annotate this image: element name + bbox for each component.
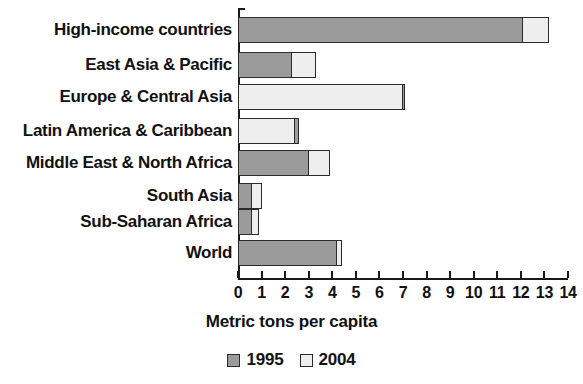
x-tick-label: 4 [328, 284, 337, 302]
x-tick-label: 3 [304, 284, 313, 302]
x-tick-label: 9 [446, 284, 455, 302]
x-tick [496, 271, 498, 278]
bar-chart: 01234567891011121314 High-income countri… [0, 0, 583, 384]
bar-1995 [238, 150, 309, 176]
x-tick-label: 6 [375, 284, 384, 302]
x-tick [331, 271, 333, 278]
x-tick [426, 271, 428, 278]
x-tick-label: 0 [234, 284, 243, 302]
y-axis-top-cap [238, 8, 245, 10]
category-label: Sub-Saharan Africa [80, 212, 232, 232]
legend-item-1995: 1995 [227, 350, 283, 370]
x-tick-label: 12 [512, 284, 529, 302]
x-tick-label: 11 [489, 284, 505, 302]
x-tick [261, 271, 263, 278]
x-tick [355, 271, 357, 278]
category-label: World [186, 243, 232, 263]
x-tick [308, 271, 310, 278]
x-tick [473, 271, 475, 278]
bar-1995 [238, 240, 337, 266]
x-tick-label: 1 [257, 284, 266, 302]
x-tick [543, 271, 545, 278]
legend-swatch-1995 [227, 354, 240, 367]
bar-2004 [238, 118, 295, 144]
x-axis-line [238, 278, 568, 280]
x-tick [567, 271, 569, 278]
x-tick-label: 2 [281, 284, 290, 302]
category-label: High-income countries [54, 20, 232, 40]
category-label: East Asia & Pacific [85, 55, 232, 75]
legend-label-2004: 2004 [319, 350, 356, 370]
category-label: Europe & Central Asia [59, 87, 232, 107]
bar-1995 [238, 52, 292, 78]
x-tick-label: 8 [422, 284, 431, 302]
x-tick [378, 271, 380, 278]
legend-swatch-2004 [300, 354, 313, 367]
x-tick [237, 271, 239, 278]
x-tick-label: 5 [352, 284, 361, 302]
bar-1995 [238, 183, 252, 209]
category-label: Middle East & North Africa [26, 153, 232, 173]
category-label: Latin America & Caribbean [23, 121, 232, 141]
bar-1995 [238, 209, 252, 235]
x-tick [402, 271, 404, 278]
chart-legend: 1995 2004 [0, 350, 583, 370]
x-tick [284, 271, 286, 278]
legend-item-2004: 2004 [300, 350, 356, 370]
legend-label-1995: 1995 [246, 350, 283, 370]
x-tick-label: 10 [465, 284, 482, 302]
x-tick [520, 271, 522, 278]
x-axis-title: Metric tons per capita [0, 312, 583, 332]
x-tick-label: 7 [399, 284, 408, 302]
x-tick-label: 13 [536, 284, 553, 302]
bar-1995 [238, 17, 523, 43]
x-tick [449, 271, 451, 278]
category-label: South Asia [147, 186, 232, 206]
bar-2004 [238, 84, 403, 110]
x-tick-label: 14 [559, 284, 576, 302]
